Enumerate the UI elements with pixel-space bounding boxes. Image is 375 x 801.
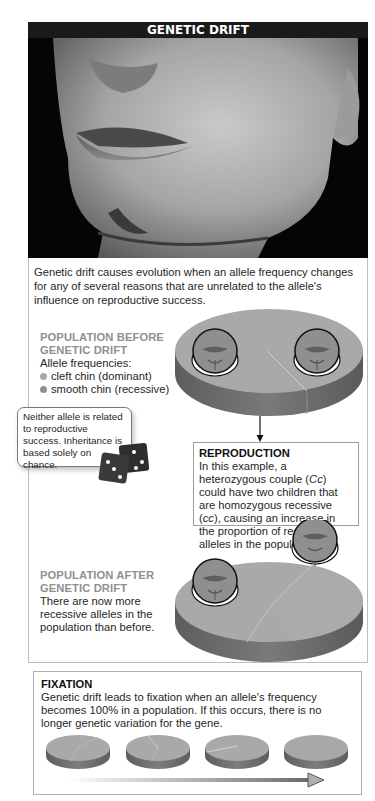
smooth-chin-swatch-icon bbox=[40, 386, 47, 393]
before-heading-line2: GENETIC DRIFT bbox=[40, 344, 127, 357]
legend-label-cleft: cleft chin (dominant) bbox=[51, 370, 152, 383]
arrow-down-icon bbox=[255, 416, 265, 444]
reproduction-title: REPRODUCTION bbox=[199, 447, 353, 460]
legend-label-smooth: smooth chin (recessive) bbox=[51, 383, 169, 396]
fixation-pie-3 bbox=[205, 735, 269, 769]
fixation-pie-1 bbox=[46, 735, 110, 769]
fixation-title: FIXATION bbox=[41, 678, 354, 691]
allele-frequencies-label: Allele frequencies: bbox=[40, 357, 131, 370]
fixation-pie-sequence bbox=[40, 732, 360, 772]
legend-item-smooth: smooth chin (recessive) bbox=[40, 383, 169, 396]
cleft-chin-face-icon bbox=[294, 329, 340, 376]
after-text: There are now more recessive alleles in … bbox=[40, 595, 158, 634]
before-heading-line1: POPULATION BEFORE bbox=[40, 331, 164, 344]
after-heading-line2: GENETIC DRIFT bbox=[40, 582, 127, 595]
face-illustration bbox=[28, 38, 368, 258]
chin-photo bbox=[28, 38, 368, 258]
fixation-pie-4 bbox=[284, 735, 348, 769]
dice-icon bbox=[96, 442, 156, 487]
fixation-pie-2 bbox=[126, 735, 190, 769]
intro-text: Genetic drift causes evolution when an a… bbox=[34, 265, 359, 307]
pie-after-drift bbox=[172, 558, 367, 663]
page-title: GENETIC DRIFT bbox=[28, 22, 368, 38]
legend-item-cleft: cleft chin (dominant) bbox=[40, 370, 169, 383]
reproduction-box: REPRODUCTION In this example, a heterozy… bbox=[193, 442, 359, 526]
after-heading-line1: POPULATION AFTER bbox=[40, 569, 154, 582]
cleft-chin-face-icon bbox=[192, 559, 238, 606]
cleft-chin-face-icon bbox=[192, 329, 238, 376]
fixation-text: Genetic drift leads to fixation when an … bbox=[41, 691, 354, 730]
time-arrow-icon bbox=[68, 772, 328, 788]
legend: cleft chin (dominant) smooth chin (reces… bbox=[40, 370, 169, 396]
cleft-chin-swatch-icon bbox=[40, 373, 47, 380]
pie-before-drift bbox=[172, 306, 367, 418]
